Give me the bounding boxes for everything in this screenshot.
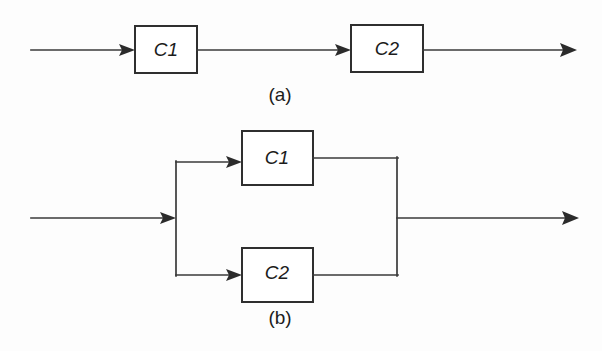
panel-a-block-c2-label: C2 <box>375 38 400 59</box>
panel-b-block-c2: C2 <box>242 248 313 302</box>
panel-a-caption: (a) <box>268 84 291 105</box>
panel-b-output-arrow <box>397 211 579 225</box>
panel-b-caption: (b) <box>268 307 291 328</box>
panel-b-input-arrow <box>31 212 176 224</box>
panel-a-group: C1 C2 (a) <box>31 25 577 105</box>
panel-a-middle-arrow <box>197 44 351 56</box>
panel-b-block-c2-label: C2 <box>265 262 290 283</box>
panel-b-group: C1 C2 (b) <box>31 131 579 328</box>
panel-a-output-arrow <box>423 43 577 57</box>
figure-root: C1 C2 (a) <box>0 0 602 351</box>
panel-a-block-c2: C2 <box>351 25 423 72</box>
panel-a-block-c1-label: C1 <box>154 39 178 60</box>
panel-b-block-c1-label: C1 <box>265 147 289 168</box>
panel-a-input-arrow <box>31 44 135 56</box>
panel-b-branch-top-arrow <box>176 156 242 168</box>
panel-b-branch-bottom-arrow <box>176 269 242 281</box>
block-diagram-canvas: C1 C2 (a) <box>0 0 602 351</box>
panel-b-block-c1: C1 <box>242 131 313 185</box>
panel-a-block-c1: C1 <box>135 26 197 73</box>
